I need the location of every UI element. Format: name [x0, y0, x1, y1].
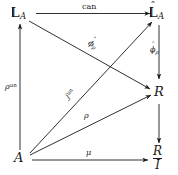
fraction-denominator: I [153, 159, 162, 171]
fraction-numerator: R [153, 145, 162, 157]
node-Lhat-A-hatwrap: ˆL [149, 6, 158, 19]
label-can: can [82, 3, 96, 11]
node-Lhat-A-subscript: A [158, 11, 164, 21]
label-rho: ρ [84, 112, 89, 120]
fraction-R-I: R I [153, 145, 162, 172]
label-phihat-rho: ˆϕρ [150, 46, 159, 55]
label-rho-un: ρun [5, 83, 17, 91]
node-A: A [14, 151, 23, 164]
node-R: R [154, 85, 164, 98]
hat-icon: ˆ [151, 42, 155, 49]
label-mu: μ [86, 149, 91, 157]
node-Lhat-A: ˆLA [149, 6, 164, 21]
node-L-A: LA [11, 6, 26, 21]
arrow-rho [30, 95, 151, 155]
node-L-A-symbol: L [11, 6, 20, 19]
node-R-over-I: R I [153, 145, 162, 172]
label-phihat-rho-subscript: ρ [155, 49, 158, 55]
node-L-A-subscript: A [20, 11, 26, 21]
label-phihat-rho-hatwrap: ˆϕ [150, 46, 155, 54]
arrow-phi-rho [29, 21, 150, 89]
commutative-diagram: LA ˆLA R A R I can ρun ˆϕρ ˆϕρ jun ρ μ [0, 0, 178, 175]
node-Lhat-A-symbol: L [149, 6, 158, 19]
label-rho-un-superscript: un [10, 82, 17, 88]
